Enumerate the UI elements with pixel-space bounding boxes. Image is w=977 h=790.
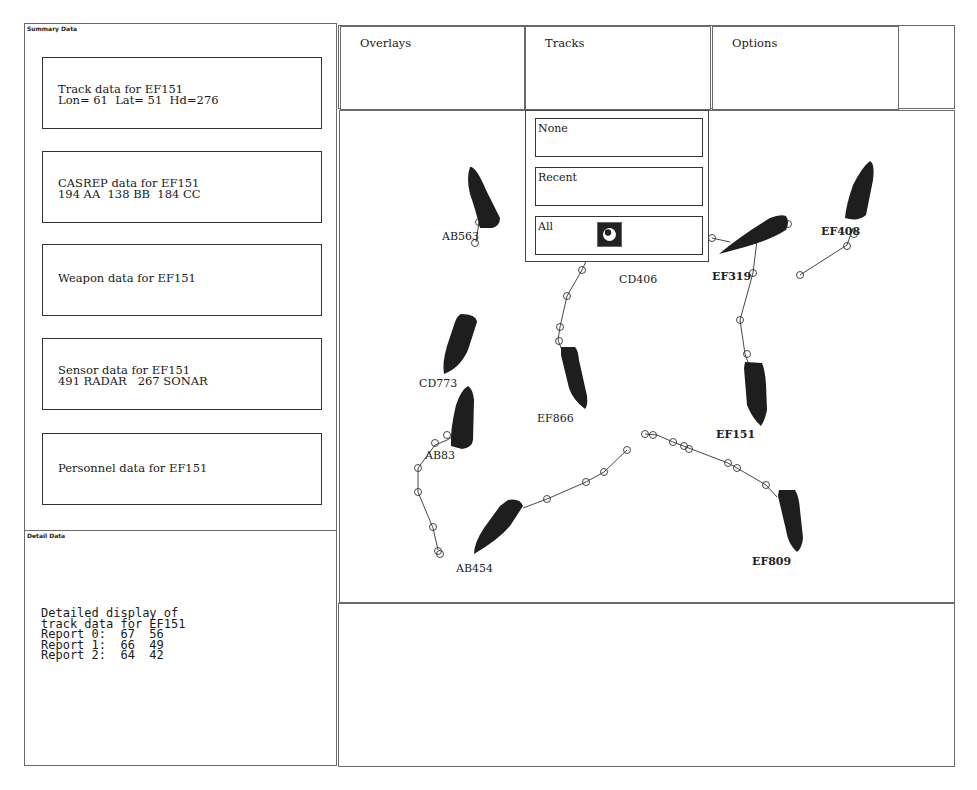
ship-label-ef809: EF809 <box>752 555 791 568</box>
ship-ef866-icon <box>561 347 587 409</box>
overlays-button[interactable]: Overlays <box>340 26 525 110</box>
tracks-button[interactable]: Tracks <box>525 26 711 110</box>
personnel-data-line1: Personnel data for EF151 <box>58 463 207 474</box>
tracks-option-none[interactable]: None <box>535 118 703 157</box>
ship-ab83-icon <box>451 386 474 449</box>
message-panel <box>338 603 955 767</box>
tracks-dropdown: None Recent All <box>525 110 709 262</box>
options-button[interactable]: Options <box>712 26 899 110</box>
summary-panel-title: Summary Data <box>27 25 77 32</box>
ship-label-ab83: AB83 <box>424 449 455 462</box>
personnel-data-box[interactable]: Personnel data for EF151 <box>42 433 322 505</box>
ship-ef809-icon <box>778 490 803 552</box>
track-data-box[interactable]: Track data for EF151 Lon= 61 Lat= 51 Hd=… <box>42 57 322 129</box>
ship-label-ef151: EF151 <box>716 428 755 441</box>
ship-label-ab563: AB563 <box>441 230 479 243</box>
ship-ab454-icon <box>474 500 523 554</box>
sensor-data-box[interactable]: Sensor data for EF151 491 RADAR 267 SONA… <box>42 338 322 410</box>
overlays-label: Overlays <box>360 36 411 50</box>
tracks-option-recent-label: Recent <box>538 171 577 184</box>
tracks-option-all-label: All <box>538 220 553 233</box>
tracks-label: Tracks <box>545 36 584 50</box>
ship-ab563-icon <box>468 167 500 228</box>
ship-label-cd773: CD773 <box>419 377 457 390</box>
ship-cd773-icon <box>443 314 477 374</box>
tracks-option-none-label: None <box>538 122 568 135</box>
casrep-data-box[interactable]: CASREP data for EF151 194 AA 138 BB 184 … <box>42 151 322 223</box>
ship-label-ef408: EF408 <box>821 225 861 238</box>
casrep-data-line2: 194 AA 138 BB 184 CC <box>58 189 201 200</box>
ship-label-ef866: EF866 <box>537 412 574 425</box>
detail-panel: Detail Data Detailed display of track da… <box>24 530 337 766</box>
ship-ef319-icon <box>719 215 788 254</box>
radio-selected-icon <box>597 222 622 247</box>
tracks-option-all[interactable]: All <box>535 216 703 255</box>
weapon-data-box[interactable]: Weapon data for EF151 <box>42 244 322 316</box>
ship-label-cd406: CD406 <box>619 273 657 286</box>
ship-ef151-icon <box>744 362 767 426</box>
ship-ef408-icon <box>845 161 874 219</box>
menu-bar: Overlays Tracks Options <box>338 25 955 109</box>
tracks-option-recent[interactable]: Recent <box>535 167 703 206</box>
options-label: Options <box>732 36 777 50</box>
detail-text: Detailed display of track data for EF151… <box>41 608 186 661</box>
weapon-data-line1: Weapon data for EF151 <box>58 273 196 284</box>
summary-panel: Summary Data Track data for EF151 Lon= 6… <box>24 23 337 531</box>
ship-label-ef319: EF319 <box>712 270 751 283</box>
ship-label-ab454: AB454 <box>455 562 493 575</box>
track-data-line2: Lon= 61 Lat= 51 Hd=276 <box>58 95 219 106</box>
detail-line: Report 2: 64 42 <box>41 650 186 661</box>
sensor-data-line2: 491 RADAR 267 SONAR <box>58 376 208 387</box>
detail-panel-title: Detail Data <box>27 532 65 539</box>
